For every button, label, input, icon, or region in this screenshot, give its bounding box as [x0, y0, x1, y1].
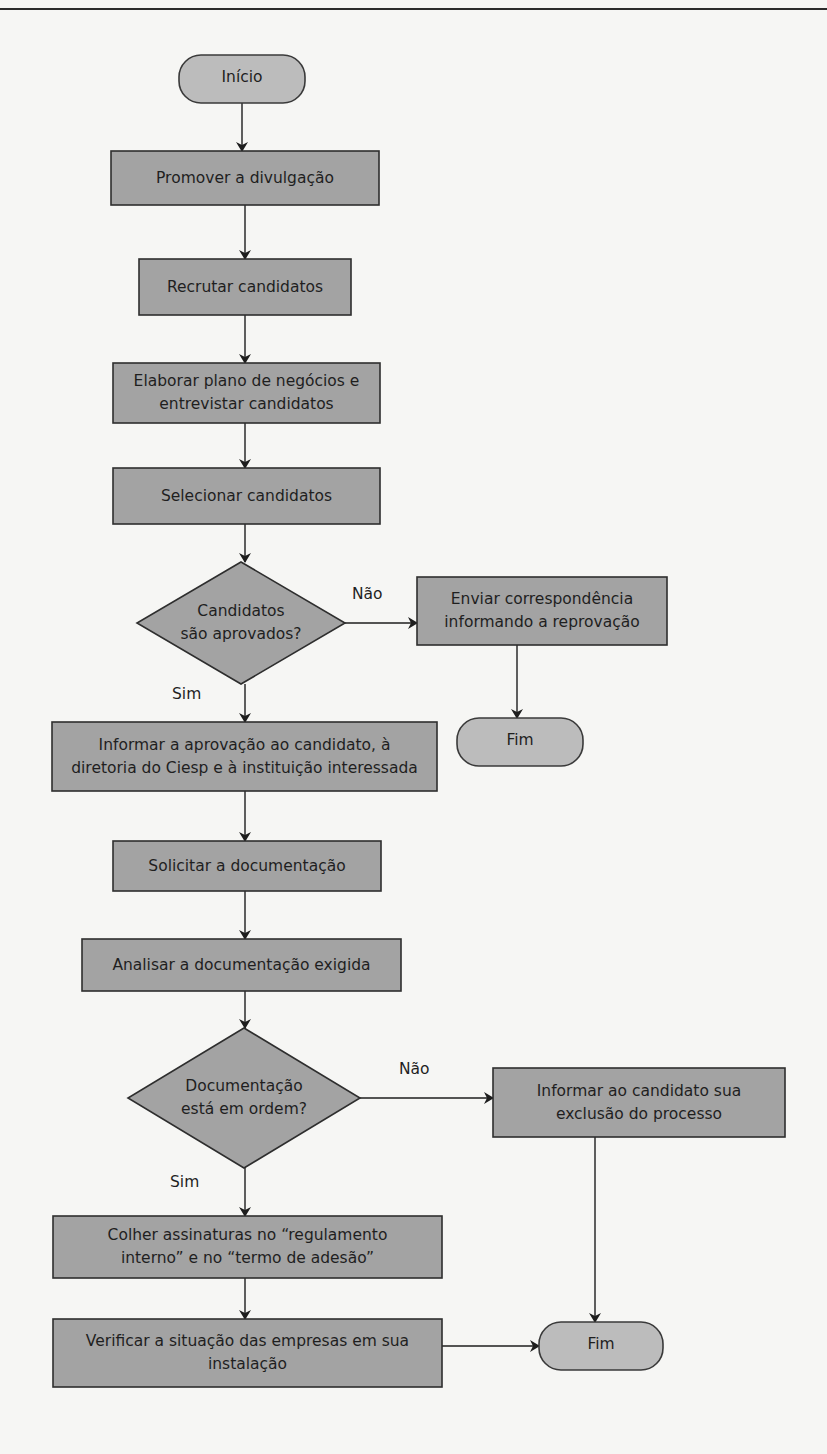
- edge-aprovados-to-informar_aprov: Sim: [172, 684, 245, 722]
- node-label: Recrutar candidatos: [167, 278, 323, 296]
- node-colher: Colher assinaturas no “regulamentointern…: [53, 1216, 442, 1278]
- node-label: Documentação: [185, 1077, 302, 1095]
- decision-diamond: [128, 1028, 360, 1168]
- process-box: [53, 1319, 442, 1387]
- node-label: Selecionar candidatos: [161, 487, 332, 505]
- process-box: [417, 577, 667, 645]
- node-excluir: Informar ao candidato suaexclusão do pro…: [493, 1068, 785, 1137]
- node-label: diretoria do Ciesp e à instituição inter…: [71, 759, 418, 777]
- node-label: Fim: [587, 1335, 614, 1353]
- node-analisar: Analisar a documentação exigida: [82, 939, 401, 991]
- node-inicio: Início: [179, 55, 305, 103]
- node-label: Candidatos: [197, 602, 284, 620]
- node-fim2: Fim: [539, 1322, 663, 1370]
- decision-diamond: [137, 562, 345, 684]
- node-label: está em ordem?: [181, 1100, 307, 1118]
- edge-label-nao: Não: [399, 1060, 430, 1078]
- node-solicitar: Solicitar a documentação: [113, 841, 381, 891]
- node-elaborar: Elaborar plano de negócios eentrevistar …: [113, 363, 380, 423]
- node-verificar: Verificar a situação das empresas em sua…: [53, 1319, 442, 1387]
- node-label: Enviar correspondência: [451, 590, 633, 608]
- node-label: Fim: [506, 731, 533, 749]
- node-enviar: Enviar correspondênciainformando a repro…: [417, 577, 667, 645]
- edge-docordem-to-excluir: Não: [360, 1060, 493, 1098]
- nodes: InícioPromover a divulgaçãoRecrutar cand…: [52, 55, 785, 1387]
- node-label: Verificar a situação das empresas em sua: [86, 1332, 409, 1350]
- node-label: Início: [221, 68, 262, 86]
- edge-label-sim: Sim: [170, 1173, 199, 1191]
- node-label: Informar ao candidato sua: [537, 1082, 741, 1100]
- node-label: exclusão do processo: [556, 1105, 722, 1123]
- node-recrutar: Recrutar candidatos: [139, 259, 351, 315]
- node-docordem: Documentaçãoestá em ordem?: [128, 1028, 360, 1168]
- edge-label-nao: Não: [352, 585, 383, 603]
- node-label: interno” e no “termo de adesão”: [121, 1249, 374, 1267]
- node-label: informando a reprovação: [444, 613, 639, 631]
- edge-label-sim: Sim: [172, 685, 201, 703]
- node-divulgacao: Promover a divulgação: [111, 151, 379, 205]
- process-box: [52, 722, 437, 791]
- node-label: instalação: [208, 1355, 287, 1373]
- node-selecionar: Selecionar candidatos: [113, 468, 380, 524]
- node-aprovados: Candidatossão aprovados?: [137, 562, 345, 684]
- node-label: Analisar a documentação exigida: [112, 956, 370, 974]
- process-box: [493, 1068, 785, 1137]
- edge-aprovados-to-enviar: Não: [345, 585, 417, 623]
- node-label: Informar a aprovação ao candidato, à: [99, 736, 391, 754]
- node-fim1: Fim: [457, 718, 583, 766]
- node-label: entrevistar candidatos: [159, 395, 333, 413]
- node-label: Promover a divulgação: [156, 169, 334, 187]
- flowchart: NãoSimNãoSim InícioPromover a divulgação…: [0, 0, 827, 1454]
- edge-docordem-to-colher: Sim: [170, 1168, 245, 1216]
- node-label: Elaborar plano de negócios e: [134, 372, 360, 390]
- node-label: Colher assinaturas no “regulamento: [108, 1226, 388, 1244]
- node-informar_aprov: Informar a aprovação ao candidato, àdire…: [52, 722, 437, 791]
- node-label: Solicitar a documentação: [148, 857, 345, 875]
- node-label: são aprovados?: [180, 625, 301, 643]
